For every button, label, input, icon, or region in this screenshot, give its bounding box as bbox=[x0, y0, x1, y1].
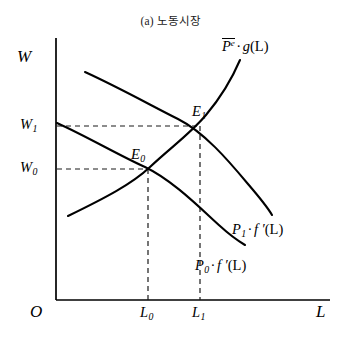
equilibrium-label-e1: E1 bbox=[192, 104, 206, 121]
labor-market-figure: (a) 노동시장 W L O W1 W0 L0 L1 bbox=[0, 0, 342, 343]
curve-label-demand-p0-op: · bbox=[209, 257, 217, 273]
equilibrium-e1-base: E bbox=[192, 103, 201, 119]
equilibrium-e0-sub: 0 bbox=[140, 153, 145, 164]
x-tick-l1-base: L bbox=[192, 304, 200, 320]
curve-label-demand-p0-fn: f ′ bbox=[217, 257, 228, 273]
labor-demand-curve-p0 bbox=[57, 123, 245, 245]
x-tick-l1-sub: 1 bbox=[200, 311, 205, 322]
y-axis-label: W bbox=[17, 48, 31, 65]
curve-label-supply: Pe·g(L) bbox=[222, 38, 268, 54]
y-tick-w0-sub: 0 bbox=[32, 166, 37, 177]
curve-label-demand-p0-arg: (L) bbox=[228, 257, 247, 273]
equilibrium-label-e0: E0 bbox=[131, 147, 145, 164]
curve-label-demand-p0: P0·f ′(L) bbox=[195, 258, 246, 275]
curve-label-supply-fn: g bbox=[243, 38, 250, 54]
x-tick-l0-sub: 0 bbox=[148, 311, 153, 322]
curve-label-supply-op: · bbox=[235, 38, 243, 54]
curve-label-demand-p1-op: · bbox=[246, 221, 254, 237]
y-tick-w0: W0 bbox=[20, 160, 37, 177]
curve-label-demand-p1: P1·f ′(L) bbox=[232, 222, 283, 239]
equilibrium-e1-sub: 1 bbox=[201, 110, 206, 121]
origin-label: O bbox=[30, 303, 42, 320]
curve-label-demand-p1-arg: (L) bbox=[265, 221, 284, 237]
curve-label-demand-p1-base: P bbox=[232, 221, 241, 237]
labor-supply-curve bbox=[68, 60, 240, 216]
y-tick-w1: W1 bbox=[20, 117, 37, 134]
x-tick-l1: L1 bbox=[192, 305, 205, 322]
curve-label-supply-base: P bbox=[222, 38, 231, 54]
curve-label-demand-p0-base: P bbox=[195, 257, 204, 273]
y-tick-w1-sub: 1 bbox=[32, 123, 37, 134]
x-axis-label: L bbox=[316, 303, 325, 320]
y-tick-w0-base: W bbox=[20, 159, 32, 175]
x-tick-l0-base: L bbox=[140, 304, 148, 320]
curve-label-supply-arg: (L) bbox=[250, 38, 269, 54]
curve-label-supply-overbar: Pe bbox=[222, 38, 235, 54]
curve-label-demand-p1-fn: f ′ bbox=[254, 221, 265, 237]
x-tick-l0: L0 bbox=[140, 305, 153, 322]
figure-canvas bbox=[0, 0, 342, 343]
y-tick-w1-base: W bbox=[20, 116, 32, 132]
equilibrium-e0-base: E bbox=[131, 146, 140, 162]
